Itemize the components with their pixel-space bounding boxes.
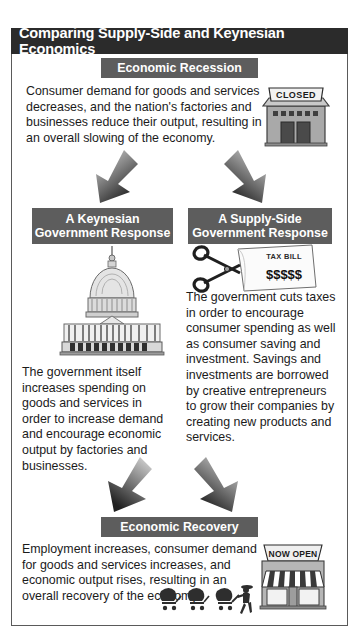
arrow-recession-to-keynesian [84, 148, 140, 206]
svg-text:$$$$$: $$$$$ [266, 267, 303, 282]
paragraph-economic-recession: Consumer demand for goods and services d… [26, 84, 272, 146]
paragraph-supply-side-response: The government cuts taxes in order to en… [186, 290, 338, 446]
section-header-keynesian-response: A Keynesian Government Response [32, 208, 173, 244]
section-header-economic-recession: Economic Recession [101, 58, 258, 78]
section-header-label: Economic Recovery [120, 520, 238, 534]
figure-title-bar: Comparing Supply-Side and Keynesian Econ… [11, 28, 348, 54]
shoppers-with-carts-icon [157, 583, 267, 617]
svg-text:NOW OPEN: NOW OPEN [269, 549, 318, 559]
section-header-label: Economic Recession [117, 61, 242, 75]
arrow-supply-side-to-recovery [192, 455, 248, 515]
svg-text:CLOSED: CLOSED [276, 90, 316, 100]
section-header-line1: A Keynesian [66, 212, 140, 226]
page-title: Comparing Supply-Side and Keynesian Econ… [19, 25, 348, 57]
closed-store-icon: CLOSED CLOSED [261, 86, 331, 148]
capitol-building-icon [56, 246, 168, 356]
svg-text:TAX BILL: TAX BILL [266, 252, 302, 261]
arrow-keynesian-to-recovery [98, 455, 154, 515]
arrow-recession-to-supply-side [222, 148, 278, 206]
section-header-line1: A Supply-Side [218, 212, 302, 226]
section-header-line2: Government Response [192, 226, 328, 240]
section-header-line2: Government Response [35, 226, 171, 240]
scissors-cutting-tax-bill-icon: TAX BILL $$$$$ TAX BILL $$$$$ [192, 243, 318, 295]
section-header-supply-side-response: A Supply-Side Government Response [188, 208, 332, 244]
section-header-economic-recovery: Economic Recovery [101, 517, 258, 537]
